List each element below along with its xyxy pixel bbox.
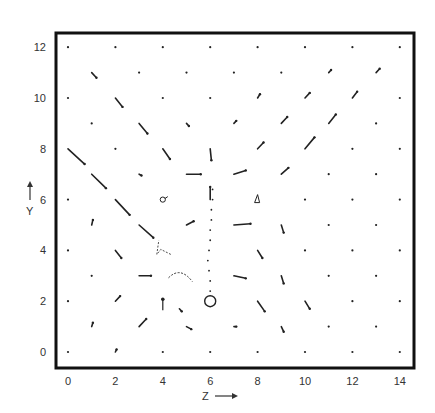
vector-mark [92,174,107,189]
vector-mark [67,46,69,48]
vector-mark [115,295,121,301]
vector-mark [114,46,116,48]
vector-mark [92,73,98,79]
trail-dot [209,239,211,241]
vector-mark [328,224,330,226]
vector-mark [399,46,401,48]
x-axis-ticks: 02468101214 [65,375,406,387]
vector-mark [115,200,130,216]
y-tick-label: 0 [40,346,46,358]
vector-mark [329,69,333,73]
vector-mark [399,97,401,99]
x-tick-label: 4 [160,375,166,387]
vector-mark [399,148,401,150]
vector-mark [281,167,289,175]
vector-mark [399,300,401,302]
vector-mark [255,195,260,203]
vector-mark [281,276,285,285]
x-axis-label: Z [202,390,238,402]
vector-mark [139,225,154,239]
y-tick-label: 4 [40,244,46,256]
vector-mark [68,149,86,165]
vector-mark [163,149,171,160]
vector-mark [234,223,252,225]
vector-mark [305,301,311,310]
plot-frame [56,33,414,368]
y-tick-label: 10 [34,92,46,104]
y-tick-label: 6 [40,194,46,206]
vector-mark [375,173,377,175]
vector-mark [281,327,285,333]
vector-mark [351,300,353,302]
vector-mark [351,199,353,201]
vector-mark [304,249,306,251]
vector-mark [162,97,164,99]
vector-mark [139,318,147,327]
vector-mark [187,123,191,127]
vector-mark [258,250,264,259]
vector-mark [304,351,306,353]
vector-mark [258,141,265,149]
vector-mark [139,123,148,134]
vector-mark [160,197,168,203]
trail-dot [212,189,214,191]
trail-dot [210,219,212,221]
vector-mark [67,199,69,201]
vector-mark [161,297,165,310]
x-tick-label: 8 [255,375,261,387]
y-arrow-icon [27,181,33,200]
vector-mark [115,348,117,352]
vector-mark [258,301,266,312]
vector-mark [257,351,259,353]
vector-mark [258,93,262,98]
trail-dot [210,209,212,211]
trail-dot [209,280,211,282]
x-arrow-icon [215,393,238,399]
vector-mark [209,186,211,200]
y-axis-ticks: 024681012 [34,41,46,358]
y-axis-label: Y [26,181,34,217]
x-tick-label: 12 [346,375,358,387]
vector-mark [304,46,306,48]
vector-mark [375,275,377,277]
vector-mark [187,173,202,175]
vector-mark [187,220,195,225]
vector-mark [162,46,164,48]
vector-mark [280,72,282,74]
vector-mark [234,169,247,174]
x-tick-label: 0 [65,375,71,387]
vector-mark [67,97,69,99]
vector-mark [209,351,211,353]
trail-dot [207,260,209,262]
y-tick-label: 8 [40,143,46,155]
vector-mark [139,275,152,277]
trail-dot [209,229,211,231]
vector-mark [281,225,285,234]
vector-mark [138,72,140,74]
vector-mark [351,351,353,353]
vector-mark [305,136,316,149]
trail-dot [208,270,210,272]
vector-mark [281,116,288,124]
vector-mark [187,327,193,331]
vector-mark [328,173,330,175]
vector-mark [67,300,69,302]
source-circle-marker [205,296,216,307]
vector-mark [351,148,353,150]
vector-mark [352,90,358,98]
x-tick-label: 2 [112,375,118,387]
vector-mark [305,92,311,98]
vector-mark [162,351,164,353]
vector-mark [139,174,143,176]
vector-mark [376,68,381,73]
vector-mark [92,322,94,327]
vector-mark [328,326,330,328]
vector-mark [375,326,377,328]
vector-mark [351,46,353,48]
vector-mark [233,72,235,74]
vector-mark [329,113,337,123]
vector-mark [399,249,401,251]
vector-mark [399,199,401,201]
vector-mark [91,275,93,277]
vector-mark [399,351,401,353]
